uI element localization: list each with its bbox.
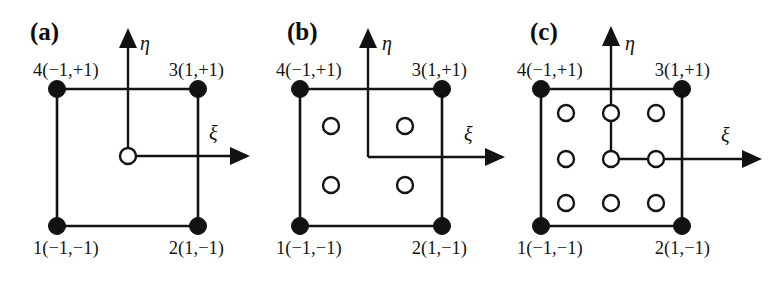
corner-label-n3: 3(1,+1) [655,60,710,81]
corner-label-n4: 4(−1,+1) [276,60,342,81]
corner-label-n2: 2(1,−1) [169,238,224,259]
integration-point-3 [648,105,664,121]
integration-point-3 [323,177,339,193]
corner-label-n1: 1(−1,−1) [517,238,583,259]
eta-axis-label: η [140,32,150,55]
xi-axis-label: ξ [209,122,218,144]
corner-label-n4: 4(−1,+1) [33,60,99,81]
corner-node-n1 [49,218,66,235]
figure-root: 1(−1,−1)2(1,−1)3(1,+1)4(−1,+1)ηξ(a) 1(−1… [0,0,772,284]
corner-label-n1: 1(−1,−1) [33,238,99,259]
panel-b-canvas: 1(−1,−1)2(1,−1)3(1,+1)4(−1,+1)ηξ(b) [255,0,512,284]
panel-a: 1(−1,−1)2(1,−1)3(1,+1)4(−1,+1)ηξ(a) [0,0,257,284]
corner-node-n1 [533,218,550,235]
xi-axis-label: ξ [464,123,473,145]
corner-node-n2 [434,218,451,235]
xi-axis-arrowhead-icon [742,150,762,168]
corner-node-n4 [49,81,66,98]
corner-label-n2: 2(1,−1) [655,238,710,259]
panel-tag-a: (a) [30,18,59,46]
panel-c: 1(−1,−1)2(1,−1)3(1,+1)4(−1,+1)ηξ(c) [512,0,769,284]
corner-node-n2 [190,218,207,235]
eta-axis-arrowhead-icon [602,26,620,46]
corner-node-n2 [674,218,691,235]
eta-axis-arrowhead-icon [359,28,377,48]
integration-point-1 [323,118,339,134]
corner-node-n4 [533,81,550,98]
corner-label-n3: 3(1,+1) [412,60,467,81]
corner-node-n4 [292,81,309,98]
panel-a-canvas: 1(−1,−1)2(1,−1)3(1,+1)4(−1,+1)ηξ(a) [0,0,257,284]
integration-point-8 [603,195,619,211]
corner-label-n3: 3(1,+1) [169,60,224,81]
integration-point-9 [648,195,664,211]
corner-label-n1: 1(−1,−1) [276,238,342,259]
eta-axis-label: η [625,32,635,55]
panel-b: 1(−1,−1)2(1,−1)3(1,+1)4(−1,+1)ηξ(b) [255,0,512,284]
corner-node-n3 [434,81,451,98]
integration-point-4 [558,151,574,167]
integration-point-5 [603,151,619,167]
xi-axis-arrowhead-icon [230,147,250,165]
eta-axis-label: η [382,32,392,55]
eta-axis-arrowhead-icon [119,28,137,48]
integration-point-7 [558,195,574,211]
panel-tag-c: (c) [530,18,558,46]
panel-tag-b: (b) [287,18,318,46]
corner-label-n4: 4(−1,+1) [517,60,583,81]
corner-label-n2: 2(1,−1) [412,238,467,259]
corner-node-n3 [674,81,691,98]
xi-axis-label: ξ [721,124,730,146]
corner-node-n1 [292,218,309,235]
xi-axis-arrowhead-icon [485,148,505,166]
integration-point-1 [558,105,574,121]
integration-point-2 [603,105,619,121]
panel-c-canvas: 1(−1,−1)2(1,−1)3(1,+1)4(−1,+1)ηξ(c) [512,0,769,284]
integration-point-2 [397,118,413,134]
integration-point-1 [120,148,136,164]
integration-point-6 [648,151,664,167]
integration-point-4 [397,177,413,193]
corner-node-n3 [190,81,207,98]
